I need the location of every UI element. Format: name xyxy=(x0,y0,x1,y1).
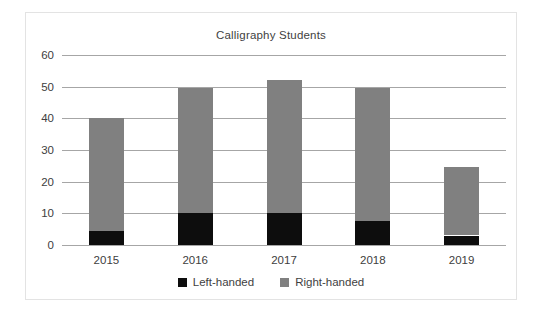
bar-segment-left-handed-2015[interactable] xyxy=(89,231,124,245)
chart-title: Calligraphy Students xyxy=(26,29,516,41)
bar-segment-left-handed-2017[interactable] xyxy=(267,213,302,245)
y-axis-tick-label: 50 xyxy=(41,81,54,93)
bar-segment-left-handed-2019[interactable] xyxy=(444,236,479,246)
y-axis-tick-label: 0 xyxy=(48,239,54,251)
bar-group-2018[interactable]: 2018 xyxy=(355,55,390,245)
bar-segment-right-handed-2016[interactable] xyxy=(178,88,213,213)
bar-segment-right-handed-2017[interactable] xyxy=(267,80,302,213)
bar-group-2016[interactable]: 2016 xyxy=(178,55,213,245)
bar-group-2019[interactable]: 2019 xyxy=(444,55,479,245)
legend-label-left-handed: Left-handed xyxy=(193,276,254,288)
bar-group-2017[interactable]: 2017 xyxy=(267,55,302,245)
bar-segment-left-handed-2016[interactable] xyxy=(178,213,213,245)
x-axis-tick-label-2016: 2016 xyxy=(182,254,208,266)
chart-legend: Left-handed Right-handed xyxy=(26,276,516,288)
plot-area: 605040302010020152016201720182019 xyxy=(62,55,506,245)
x-axis-tick-label-2015: 2015 xyxy=(94,254,120,266)
legend-item-right-handed[interactable]: Right-handed xyxy=(280,276,364,288)
x-axis-tick-label-2017: 2017 xyxy=(271,254,297,266)
x-axis-tick-label-2018: 2018 xyxy=(360,254,386,266)
y-axis-tick-label: 30 xyxy=(41,144,54,156)
bar-segment-right-handed-2015[interactable] xyxy=(89,118,124,230)
bar-segment-right-handed-2018[interactable] xyxy=(355,88,390,221)
bar-group-2015[interactable]: 2015 xyxy=(89,55,124,245)
bar-segment-left-handed-2018[interactable] xyxy=(355,221,390,245)
y-axis-tick-label: 60 xyxy=(41,49,54,61)
y-axis-tick-label: 40 xyxy=(41,112,54,124)
y-axis-tick-label: 10 xyxy=(41,207,54,219)
legend-item-left-handed[interactable]: Left-handed xyxy=(178,276,254,288)
legend-swatch-left-handed xyxy=(178,278,187,287)
chart-frame: Calligraphy Students 6050403020100201520… xyxy=(25,12,517,300)
bar-segment-right-handed-2019[interactable] xyxy=(444,167,479,235)
gridline-0: 0 xyxy=(62,245,506,246)
legend-swatch-right-handed xyxy=(280,278,289,287)
x-axis-tick-label-2019: 2019 xyxy=(449,254,475,266)
y-axis-tick-label: 20 xyxy=(41,176,54,188)
legend-label-right-handed: Right-handed xyxy=(295,276,364,288)
